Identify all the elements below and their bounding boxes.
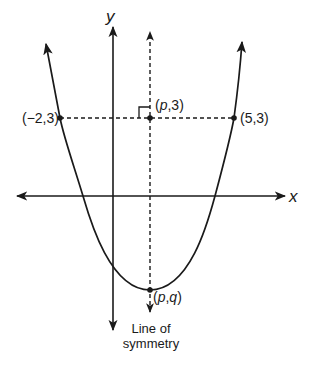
parabola-left-branch <box>46 44 150 290</box>
y-axis-label: y <box>105 7 116 26</box>
label-top-rest: ,3) <box>167 97 183 113</box>
parabola-right-branch <box>150 42 242 290</box>
label-vertex-var1: p <box>157 289 166 305</box>
label-top-var: p <box>159 97 168 113</box>
x-axis-label: x <box>288 187 298 206</box>
symmetry-label-line1: Line of <box>131 321 170 336</box>
label-top-point: (p,3) <box>155 97 184 113</box>
label-right-point: (5,3) <box>240 110 269 126</box>
label-vertex-close: ) <box>177 289 182 305</box>
label-vertex: (p,q) <box>153 289 182 305</box>
symmetry-label-line2: symmetry <box>123 336 180 351</box>
point-right <box>231 115 237 121</box>
label-left-point: (−2,3) <box>22 110 59 126</box>
point-top <box>147 115 153 121</box>
label-vertex-var2: q <box>169 289 177 305</box>
point-vertex <box>147 287 153 293</box>
parabola-diagram: x y (−2,3) (p,3) (5,3) (p,q) Line of sym… <box>0 0 310 367</box>
